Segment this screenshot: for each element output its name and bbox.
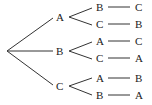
node-ab: B bbox=[96, 1, 103, 13]
branch-root-c bbox=[7, 51, 53, 85]
node-bc: C bbox=[96, 52, 103, 64]
leaf-abc: C bbox=[135, 1, 142, 13]
branch-b-a bbox=[69, 42, 92, 51]
node-ba: A bbox=[96, 35, 104, 47]
node-c: C bbox=[56, 80, 63, 92]
branch-c-a bbox=[69, 78, 92, 86]
branch-a-b bbox=[69, 8, 92, 17]
branch-root-a bbox=[7, 18, 53, 51]
leaf-bac: C bbox=[135, 35, 142, 47]
leaf-bca: A bbox=[135, 52, 143, 64]
branch-b-c bbox=[69, 51, 92, 59]
branch-a-c bbox=[69, 17, 92, 25]
leaf-cba: A bbox=[135, 89, 143, 101]
leaf-cab: B bbox=[135, 72, 142, 84]
node-ca: A bbox=[96, 72, 104, 84]
leaf-acb: B bbox=[135, 18, 142, 30]
node-cb: B bbox=[96, 89, 103, 101]
node-ac: C bbox=[96, 18, 103, 30]
branch-c-b bbox=[69, 86, 92, 95]
node-b: B bbox=[56, 45, 63, 57]
tree-diagram: A B C B C A C A B C B C A B A bbox=[0, 0, 152, 105]
node-a: A bbox=[56, 11, 64, 23]
